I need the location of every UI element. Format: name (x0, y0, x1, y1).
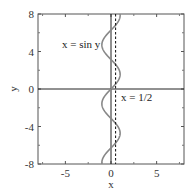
annotation-sin: x = sin y (62, 38, 101, 50)
y-tick-label: 0 (29, 83, 35, 95)
y-axis-label: y (7, 86, 19, 92)
y-tick-label: 4 (29, 46, 35, 58)
x-tick-label: 5 (154, 167, 160, 179)
y-tick-label: 8 (29, 8, 35, 20)
x-axis-label: x (108, 178, 114, 190)
annotation-half: x = 1/2 (121, 91, 152, 103)
y-tick-label: -8 (25, 158, 35, 170)
chart: -505-8-4048 x y x = sin y x = 1/2 (0, 0, 196, 192)
x-tick-label: -5 (61, 167, 71, 179)
y-tick-label: -4 (25, 121, 35, 133)
